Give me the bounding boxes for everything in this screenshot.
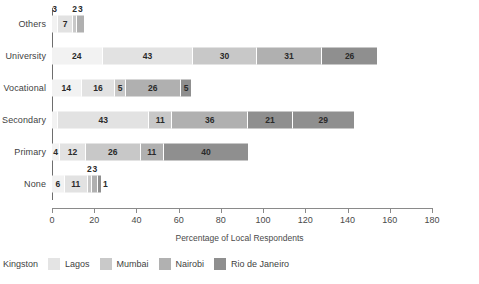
legend-label: Rio de Janeiro [231,259,289,269]
segment-value-label: 11 [156,116,165,125]
legend-item-mumbai[interactable]: Mumbai [100,258,149,270]
x-tick [136,208,137,213]
bar-segment[interactable]: 4 [52,144,60,161]
x-tick-label: 40 [131,215,141,225]
segment-value-label: 11 [147,148,156,157]
stacked-bar: 3723 [52,16,84,33]
segment-value-label: 5 [184,84,189,93]
segment-value-label: 26 [148,84,157,93]
x-tick-label: 60 [174,215,184,225]
segment-value-label: 31 [284,52,293,61]
x-tick [179,208,180,213]
bar-segment[interactable]: 26 [86,144,141,161]
bar-segment[interactable]: 29 [293,112,354,129]
bar-segment[interactable]: 5 [181,80,192,97]
bar-segment[interactable]: 40 [164,144,248,161]
segment-value-label: 6 [55,180,60,189]
segment-value-label: 3 [52,4,57,13]
x-tick [432,208,433,213]
legend-swatch [100,258,112,270]
x-tick [305,208,306,213]
legend-item-lagos[interactable]: Lagos [48,258,90,270]
segment-value-label: 3 [78,4,83,13]
x-tick-label: 20 [89,215,99,225]
bar-segment[interactable]: 7 [58,16,73,33]
segment-value-label: 4 [53,148,58,157]
x-tick-label: 80 [216,215,226,225]
x-tick-label: 100 [256,215,271,225]
segment-value-label: 43 [143,52,152,61]
category-label: Vocational [3,83,46,93]
bar-segment[interactable]: 24 [52,48,103,65]
x-axis-line [52,208,432,209]
bar-segment[interactable]: 11 [149,112,172,129]
legend-item-nairobi[interactable]: Nairobi [159,258,205,270]
bar-segment[interactable]: 43 [58,112,149,129]
x-tick [52,208,53,213]
category-label: Secondary [2,115,46,125]
legend-swatch [48,258,60,270]
bar-row-university: University2443303126 [52,40,432,72]
bar-segment[interactable]: 14 [52,80,82,97]
bar-segment[interactable]: 12 [60,144,85,161]
x-tick [390,208,391,213]
segment-value-label: 2 [72,4,77,13]
bar-segment[interactable]: 3 [77,16,83,33]
segment-value-label: 21 [265,116,274,125]
bar-segment[interactable]: 5 [115,80,126,97]
segment-value-label: 40 [201,148,210,157]
legend-swatch [214,258,226,270]
x-axis-title: Percentage of Local Respondents [0,233,479,243]
x-tick-label: 120 [298,215,313,225]
stacked-bar: 14165265 [52,80,191,97]
bar-segment[interactable]: 16 [82,80,116,97]
legend: KingstonLagosMumbaiNairobiRio de Janeiro [0,258,289,270]
segment-value-label: 24 [72,52,81,61]
x-tick-label: 0 [49,215,54,225]
x-tick [348,208,349,213]
bar-segment[interactable]: 6 [52,176,65,193]
bar-row-secondary: Secondary4311362129 [52,104,432,136]
x-tick [263,208,264,213]
segment-value-label: 26 [345,52,354,61]
category-label: None [24,179,46,189]
legend-item-kingston[interactable]: Kingston [0,258,38,270]
x-tick [94,208,95,213]
bar-row-none: None611231 [52,168,432,200]
x-tick-label: 140 [340,215,355,225]
segment-value-label: 1 [103,180,108,189]
segment-value-label: 43 [98,116,107,125]
segment-value-label: 16 [93,84,102,93]
bar-row-others: Others3723 [52,8,432,40]
legend-label: Mumbai [117,259,149,269]
bar-segment[interactable]: 21 [248,112,292,129]
stacked-bar: 412261140 [52,144,248,161]
segment-value-label: 30 [220,52,229,61]
legend-label: Lagos [65,259,90,269]
x-tick-label: 180 [424,215,439,225]
segment-value-label: 12 [68,148,77,157]
bar-segment[interactable]: 26 [322,48,377,65]
stacked-bar: 4311362129 [52,112,354,129]
category-label: University [5,51,46,61]
category-label: Others [18,19,46,29]
bar-segment[interactable]: 11 [141,144,164,161]
legend-item-rio-de-janeiro[interactable]: Rio de Janeiro [214,258,289,270]
segment-value-label: 11 [71,180,80,189]
bar-row-vocational: Vocational14165265 [52,72,432,104]
legend-label: Nairobi [176,259,205,269]
bar-segment[interactable]: 43 [103,48,194,65]
segment-value-label: 36 [205,116,214,125]
legend-swatch [159,258,171,270]
bar-segment[interactable]: 30 [193,48,256,65]
plot-area: Others3723University2443303126Vocational… [52,8,432,200]
bar-segment[interactable]: 11 [65,176,88,193]
segment-value-label: 7 [63,20,68,29]
bar-segment[interactable]: 26 [126,80,181,97]
bar-segment[interactable]: 36 [172,112,248,129]
segment-value-label: 14 [62,84,71,93]
bar-segment[interactable]: 1 [98,176,100,193]
legend-label: Kingston [3,259,38,269]
segment-value-label: 5 [118,84,123,93]
bar-segment[interactable]: 31 [257,48,322,65]
